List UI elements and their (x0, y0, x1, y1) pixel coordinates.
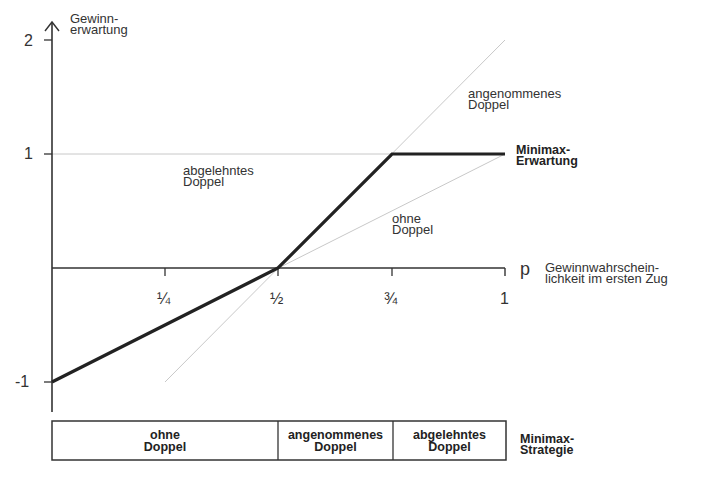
y-axis-label: Gewinn- erwartung (70, 13, 128, 35)
y-tick-label-1: 1 (24, 145, 33, 163)
strategy-cell-angenommenes-doppel: angenommenes Doppel (278, 421, 393, 460)
annotation-minimax-erwartung: Minimax- Erwartung (516, 145, 578, 167)
chart-plot-area (0, 0, 704, 479)
annotation-abgelehntes-doppel: abgelehntes Doppel (183, 165, 254, 187)
x-tick-label-half: ½ (270, 290, 283, 308)
annotation-ohne-doppel: ohne Doppel (392, 213, 433, 235)
strategy-cell-ohne-doppel: ohne Doppel (52, 421, 278, 460)
x-tick-label-three-quarter: ¾ (384, 290, 397, 308)
x-tick-label-quarter: ¼ (157, 290, 170, 308)
strategy-label: Minimax- Strategie (520, 434, 574, 456)
x-axis-symbol: p (520, 259, 530, 280)
y-tick-label-2: 2 (24, 32, 33, 50)
y-tick-label-m1: -1 (15, 373, 29, 391)
annotation-angenommenes-doppel: angenommenes Doppel (468, 88, 561, 110)
strategy-cell-abgelehntes-doppel: abgelehntes Doppel (393, 421, 506, 460)
x-tick-label-1: 1 (500, 290, 509, 308)
x-axis-label: Gewinnwahrschein- lichkeit im ersten Zug (545, 262, 668, 284)
